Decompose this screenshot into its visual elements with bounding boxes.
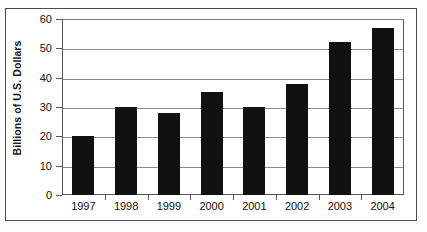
bar-slot — [62, 19, 105, 195]
y-tick-label: 30 — [12, 101, 52, 113]
bar — [372, 28, 394, 195]
y-tick-label: 40 — [12, 72, 52, 84]
y-tick-label: 60 — [12, 13, 52, 25]
bar — [201, 92, 223, 195]
bar — [72, 136, 94, 195]
y-tick-label: 10 — [12, 160, 52, 172]
y-tick-label: 50 — [12, 42, 52, 54]
bar-slot — [105, 19, 148, 195]
bar-slot — [190, 19, 233, 195]
y-tick-label: 0 — [12, 189, 52, 201]
x-tick-label: 2004 — [353, 200, 413, 212]
bar-chart-figure: Billions of U.S. Dollars 0102030405060 1… — [0, 0, 427, 232]
bar — [158, 113, 180, 195]
bar-slot — [361, 19, 404, 195]
y-tick-label: 20 — [12, 130, 52, 142]
bar-slot — [319, 19, 362, 195]
bar-slot — [148, 19, 191, 195]
bar — [243, 107, 265, 195]
y-tick-mark — [56, 195, 62, 196]
bars-layer — [62, 19, 404, 195]
bar — [329, 42, 351, 195]
bar — [115, 107, 137, 195]
bar-slot — [233, 19, 276, 195]
bar-slot — [276, 19, 319, 195]
bar — [286, 84, 308, 195]
